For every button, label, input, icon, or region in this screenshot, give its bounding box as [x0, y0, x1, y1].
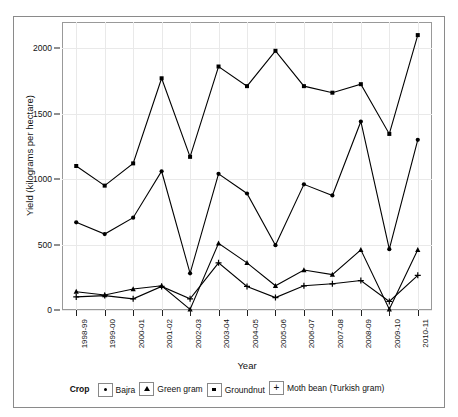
y-tick-mark [54, 48, 60, 49]
x-tick-mark [162, 310, 163, 316]
data-point [415, 247, 420, 252]
x-tick-label: 2001-02 [165, 319, 174, 348]
y-tick-label: 2000 [33, 43, 52, 53]
y-tick-mark [54, 244, 60, 245]
data-point [160, 169, 164, 173]
x-tick-label: 2004-05 [251, 319, 260, 348]
x-tick-label: 1999-00 [108, 319, 117, 348]
y-tick-mark [54, 310, 60, 311]
data-point [301, 267, 306, 272]
data-point [131, 216, 135, 220]
x-tick-mark [219, 310, 220, 316]
data-point [359, 119, 363, 123]
data-point [302, 84, 306, 88]
data-point [330, 193, 334, 197]
legend-marker-plus-icon: + [269, 381, 284, 395]
legend-label: Groundnut [225, 385, 265, 395]
data-point [103, 232, 107, 236]
legend-marker-circle-icon [98, 383, 113, 397]
legend-marker-triangle-icon [139, 382, 154, 396]
data-point [272, 295, 278, 301]
series-line [76, 35, 418, 186]
data-point [160, 76, 164, 80]
data-point [131, 161, 135, 165]
plot-panel [62, 22, 432, 310]
y-tick-mark [54, 179, 60, 180]
x-tick-mark [389, 310, 390, 316]
plus-icon: + [273, 384, 279, 392]
data-point [188, 155, 192, 159]
y-tick-label: 0 [47, 305, 52, 315]
series-groundnut [74, 33, 420, 188]
legend-items: BajraGreen gramGroundnut+Moth bean (Turk… [98, 381, 389, 397]
data-point [416, 138, 420, 142]
data-point [245, 191, 249, 195]
triangle-icon [144, 386, 150, 391]
data-point [244, 260, 249, 265]
data-point [130, 296, 136, 302]
y-tick-label: 500 [38, 240, 52, 250]
legend-item[interactable]: +Moth bean (Turkish gram) [269, 381, 384, 395]
data-point [74, 164, 78, 168]
data-point [74, 220, 78, 224]
x-tick-label: 2002-03 [194, 319, 203, 348]
cropped-header-label: — ·· —— · ——— ···· —————— ·· — [4, 0, 174, 3]
data-point [217, 65, 221, 69]
data-point [329, 281, 335, 287]
x-tick-label: 2007-08 [336, 319, 345, 348]
data-point [416, 33, 420, 37]
legend-title: Crop [70, 384, 90, 394]
x-tick-mark [247, 310, 248, 316]
x-tick-mark [361, 310, 362, 316]
data-point [103, 184, 107, 188]
x-tick-mark [76, 310, 77, 316]
data-point [358, 247, 363, 252]
legend: Crop BajraGreen gramGroundnut+Moth bean … [13, 378, 445, 400]
x-tick-label: 2000-01 [137, 319, 146, 348]
data-point [245, 84, 249, 88]
data-point [216, 172, 220, 176]
series-line [76, 121, 418, 273]
y-tick-label: 1000 [33, 174, 52, 184]
x-tick-mark [418, 310, 419, 316]
data-point [359, 82, 363, 86]
y-axis: Yield (kilograms per hectare) 0500100015… [0, 22, 62, 310]
data-point [216, 240, 221, 245]
x-tick-mark [190, 310, 191, 316]
x-tick-mark [304, 310, 305, 316]
x-tick-label: 1998-99 [80, 319, 89, 348]
x-tick-mark [105, 310, 106, 316]
legend-label: Green gram [157, 384, 202, 394]
cropped-header-text: — ·· —— · ——— ···· —————— ·· — [0, 0, 458, 13]
y-tick-mark [54, 113, 60, 114]
x-tick-label: 2008-09 [364, 319, 373, 348]
x-tick-label: 2005-06 [279, 319, 288, 348]
legend-item[interactable]: Bajra [98, 383, 136, 397]
data-point [302, 182, 306, 186]
legend-item[interactable]: Green gram [139, 382, 202, 396]
y-tick-label: 1500 [33, 109, 52, 119]
x-tick-mark [275, 310, 276, 316]
series-bajra [74, 119, 420, 275]
square-icon [212, 388, 216, 392]
data-point [273, 49, 277, 53]
series-green-gram [74, 240, 421, 311]
legend-item[interactable]: Groundnut [207, 383, 265, 397]
series-line [76, 243, 418, 309]
x-tick-label: 2010-11 [421, 319, 430, 348]
data-point [159, 283, 165, 289]
legend-marker-square-icon [207, 383, 222, 397]
data-point [301, 283, 307, 289]
series-line [76, 263, 418, 302]
x-tick-mark [133, 310, 134, 316]
legend-label: Moth bean (Turkish gram) [287, 383, 384, 393]
series-layer [62, 22, 432, 310]
chart-figure: — ·· —— · ——— ···· —————— ·· — Yield (ki… [0, 0, 458, 417]
legend-label: Bajra [116, 385, 136, 395]
x-tick-mark [332, 310, 333, 316]
data-point [188, 271, 192, 275]
data-point [102, 293, 108, 299]
data-point [387, 247, 391, 251]
data-point [387, 132, 391, 136]
x-tick-label: 2003-04 [222, 319, 231, 348]
